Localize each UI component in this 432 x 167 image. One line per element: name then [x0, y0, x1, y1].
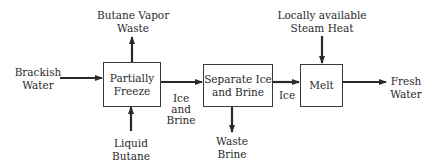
node-melt-label: Melt	[309, 79, 334, 92]
label-steam-heat: Locally available Steam Heat	[270, 9, 374, 35]
label-fresh-water-line1: Fresh	[386, 75, 426, 88]
node-separate-line2: and Brine	[204, 86, 272, 99]
label-ice-line1: Ice	[276, 89, 298, 102]
node-partially-freeze-line1: Partially	[110, 72, 154, 85]
label-ice-and-brine-line3: Brine	[166, 115, 196, 126]
label-fresh-water: Fresh Water	[386, 75, 426, 101]
label-steam-heat-line1: Locally available	[270, 9, 374, 22]
node-separate-line1: Separate Ice	[204, 73, 272, 86]
label-brackish-line2: Water	[14, 79, 62, 92]
label-brackish-line1: Brackish	[14, 66, 62, 79]
label-ice-and-brine: Ice and Brine	[166, 93, 196, 126]
process-flow-diagram: Partially Freeze Separate Ice and Brine …	[0, 0, 432, 167]
node-separate-ice-brine: Separate Ice and Brine	[203, 64, 273, 107]
node-partially-freeze: Partially Freeze	[103, 62, 161, 107]
label-steam-heat-line2: Steam Heat	[270, 22, 374, 35]
label-ice: Ice	[276, 89, 298, 102]
label-butane-vapor-line1: Butane Vapor	[97, 9, 169, 22]
node-partially-freeze-line2: Freeze	[110, 85, 154, 98]
node-melt: Melt	[300, 64, 343, 107]
label-brackish-water: Brackish Water	[14, 66, 62, 92]
label-liquid-butane-line1: Liquid	[106, 137, 156, 150]
label-butane-vapor-waste: Butane Vapor Waste	[97, 9, 169, 35]
label-waste-brine-line2: Brine	[212, 148, 252, 161]
label-butane-vapor-line2: Waste	[97, 22, 169, 35]
label-liquid-butane: Liquid Butane	[106, 137, 156, 163]
label-fresh-water-line2: Water	[386, 88, 426, 101]
label-liquid-butane-line2: Butane	[106, 150, 156, 163]
label-waste-brine: Waste Brine	[212, 135, 252, 161]
label-waste-brine-line1: Waste	[212, 135, 252, 148]
